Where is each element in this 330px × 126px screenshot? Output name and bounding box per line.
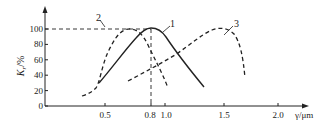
curve-label-2: 2 <box>96 12 101 23</box>
curve-1 <box>99 28 204 87</box>
x-tick-labels: 0.5 0.8 1.0 1.5 2.0 <box>99 110 284 120</box>
y-tick-label: 0 <box>39 101 44 111</box>
curve-labels <box>100 20 233 35</box>
x-tick-label: 1.5 <box>218 110 230 120</box>
reference-lines <box>45 29 151 106</box>
curve-label-1: 1 <box>170 18 175 29</box>
x-tick-label: 0.5 <box>99 110 111 120</box>
x-tick-label: 0.8 <box>144 110 156 120</box>
y-tick-label: 80 <box>34 39 44 49</box>
y-axis-arrow-icon <box>43 6 48 13</box>
y-tick-label: 60 <box>34 55 44 65</box>
y-tick-label: 100 <box>30 24 44 34</box>
leader-line-1 <box>163 26 170 32</box>
svg-text:Kr/%: Kr/% <box>15 56 28 78</box>
curve-3 <box>128 28 245 81</box>
x-axis-arrow-icon <box>302 104 309 109</box>
curve-2 <box>82 29 168 96</box>
x-tick-label: 1.0 <box>160 110 172 120</box>
leader-line-3 <box>224 26 233 35</box>
y-tick-label: 40 <box>34 70 44 80</box>
x-tick-label: 2.0 <box>272 110 284 120</box>
y-tick-labels: 0 20 40 60 80 100 <box>30 24 44 111</box>
particle-size-efficiency-chart: 0 20 40 60 80 100 Kr/% 0.5 0.8 1.0 1.5 2… <box>0 0 330 126</box>
axes <box>43 6 310 109</box>
y-tick-label: 20 <box>34 86 44 96</box>
x-axis-label: γ/μm <box>294 110 313 120</box>
y-axis-label: Kr/% <box>15 56 28 78</box>
curve-label-3: 3 <box>234 18 239 29</box>
